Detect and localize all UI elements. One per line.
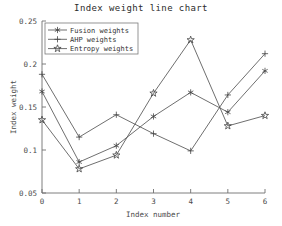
x-tick-label: 0 [40, 197, 45, 206]
y-tick-label: 0.2 [23, 60, 37, 69]
data-point-marker [39, 71, 45, 77]
y-tick-label: 0.05 [19, 189, 37, 198]
data-point-marker [188, 89, 193, 95]
chart-figure: Index weight line chart 0.050.10.150.20.… [0, 0, 282, 226]
data-point-marker [188, 148, 194, 154]
data-point-marker [150, 131, 156, 137]
series-layer [38, 36, 268, 172]
data-point-marker [76, 134, 82, 140]
x-axis-title: Index number [126, 210, 181, 219]
series-entropy-weights [38, 36, 268, 172]
x-tick-label: 5 [226, 197, 231, 206]
x-tick-label: 6 [263, 197, 268, 206]
x-tick-label: 2 [114, 197, 119, 206]
y-axis-title: Index weight [9, 80, 18, 134]
x-axis: 0123456 Index number [40, 189, 268, 219]
series-line [42, 40, 265, 169]
data-point-marker [113, 112, 119, 118]
data-point-marker [151, 113, 156, 119]
legend-label: Fusion weights [70, 27, 129, 35]
x-tick-label: 4 [188, 197, 193, 206]
y-axis: 0.050.10.150.20.25 Index weight [9, 17, 46, 198]
x-tick-label: 1 [77, 197, 82, 206]
chart-legend: Fusion weightsAHP weightsEntropy weights [45, 23, 138, 54]
data-point-marker [39, 88, 44, 94]
y-tick-label: 0.25 [19, 17, 37, 26]
x-tick-label: 3 [151, 197, 156, 206]
y-tick-label: 0.1 [23, 146, 37, 155]
legend-label: Entropy weights [70, 45, 133, 53]
series-fusion-weights [39, 68, 267, 165]
legend-label: AHP weights [70, 36, 116, 44]
x-tick-group: 0123456 [40, 189, 268, 206]
series-ahp-weights [39, 51, 268, 154]
data-point-marker [261, 112, 268, 119]
plot-canvas: 0.050.10.150.20.25 Index weight 0123456 … [0, 0, 282, 226]
y-tick-label: 0.15 [19, 103, 37, 112]
data-point-marker [114, 143, 119, 149]
